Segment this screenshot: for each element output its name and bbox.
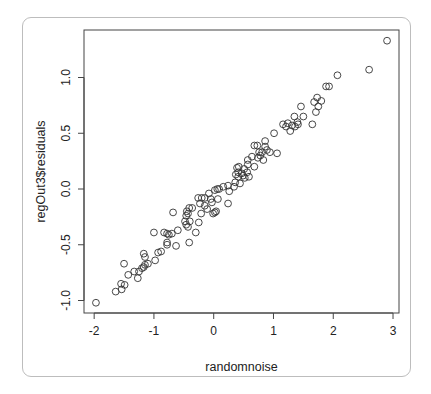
data-point — [237, 180, 244, 187]
data-point — [152, 257, 159, 264]
y-axis: -1.0-0.50.00.51.0 — [59, 69, 84, 311]
data-point — [334, 72, 341, 79]
data-point — [198, 210, 205, 217]
data-point — [251, 163, 258, 170]
x-tick-label: -2 — [89, 324, 100, 338]
data-point — [274, 150, 281, 157]
data-point — [121, 260, 128, 267]
y-tick-label: -0.5 — [59, 234, 73, 255]
data-point — [186, 239, 193, 246]
data-point — [384, 37, 391, 44]
x-tick-label: -1 — [149, 324, 160, 338]
data-point — [366, 66, 373, 73]
data-point — [173, 242, 180, 249]
data-point — [214, 196, 221, 203]
x-axis: -2-10123 — [89, 313, 397, 338]
x-tick-label: 3 — [390, 324, 397, 338]
data-point — [271, 130, 278, 137]
data-point — [151, 229, 158, 236]
data-point — [300, 113, 307, 120]
data-point — [174, 227, 181, 234]
scatter-plot: -2-10123 -1.0-0.50.00.51.0 randomnoise r… — [0, 0, 431, 394]
data-point — [220, 183, 227, 190]
y-tick-label: 0.5 — [59, 125, 73, 142]
data-point — [225, 200, 232, 207]
x-axis-title: randomnoise — [205, 360, 277, 374]
data-point — [134, 275, 141, 282]
y-tick-label: 0.0 — [59, 180, 73, 197]
data-point — [195, 219, 202, 226]
y-tick-label: -1.0 — [59, 290, 73, 311]
data-point — [298, 103, 305, 110]
data-point — [309, 121, 316, 128]
x-tick-label: 1 — [270, 324, 277, 338]
x-tick-label: 0 — [210, 324, 217, 338]
data-point — [93, 299, 100, 306]
y-axis-title: regOut3$residuals — [34, 120, 48, 222]
data-points — [93, 37, 391, 306]
data-point — [170, 209, 177, 216]
x-tick-label: 2 — [330, 324, 337, 338]
data-point — [192, 229, 199, 236]
y-tick-label: 1.0 — [59, 69, 73, 86]
